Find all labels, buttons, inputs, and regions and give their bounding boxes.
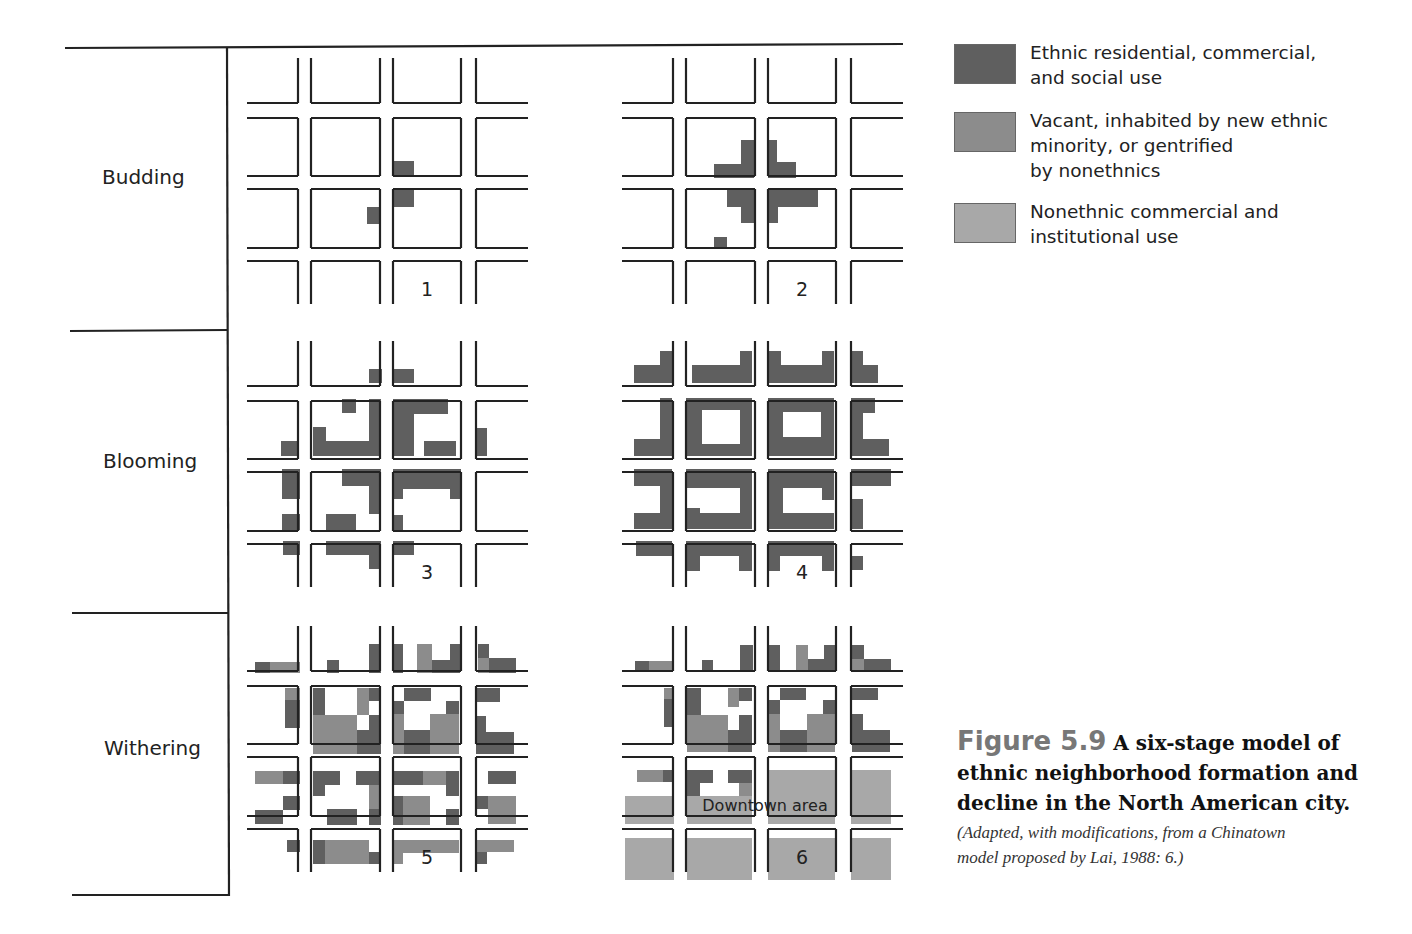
land-use-ethnic: [851, 499, 863, 529]
city-block: [311, 118, 380, 176]
land-use-vacant: [476, 840, 514, 852]
panel-number-3: 3: [421, 561, 433, 583]
land-use-vacant: [807, 714, 835, 752]
panel-number-6: 6: [796, 846, 808, 868]
legend-text-ethnic: Ethnic residential, commercial, and soci…: [1030, 40, 1316, 90]
panel-stage-3: 3: [247, 341, 528, 587]
land-use-ethnic: [313, 785, 325, 796]
land-use-vacant: [687, 715, 728, 752]
land-use-ethnic: [404, 730, 430, 754]
land-use-vacant: [325, 840, 369, 864]
legend-line: institutional use: [1030, 224, 1279, 249]
land-use-vacant: [423, 771, 446, 785]
land-use-ethnic: [728, 730, 739, 752]
city-block: [476, 472, 528, 531]
land-use-ethnic: [739, 688, 752, 701]
land-use-vacant: [393, 714, 404, 754]
land-use-ethnic: [739, 541, 752, 571]
land-use-ethnic: [393, 161, 414, 176]
land-use-ethnic: [450, 469, 461, 499]
figure-caption: Figure 5.9 A six-stage model of ethnic n…: [957, 726, 1377, 870]
land-use-ethnic: [822, 488, 834, 500]
legend-text-nonethnic: Nonethnic commercial and institutional u…: [1030, 199, 1279, 249]
panel-stage-1: 1: [247, 58, 528, 304]
land-use-vacant: [393, 853, 403, 864]
land-use-ethnic: [477, 428, 487, 456]
land-use-ethnic: [424, 441, 456, 456]
city-block: [476, 189, 528, 248]
courtyard: [702, 410, 740, 444]
city-block: [851, 189, 903, 248]
legend-line: Nonethnic commercial and: [1030, 199, 1279, 224]
city-block: [851, 58, 903, 103]
land-use-vacant: [739, 783, 752, 796]
city-block: [622, 118, 673, 176]
city-block: [851, 118, 903, 176]
land-use-vacant: [728, 688, 739, 707]
land-use-ethnic: [687, 770, 713, 783]
land-use-ethnic: [851, 556, 863, 570]
legend-item-ethnic: Ethnic residential, commercial, and soci…: [954, 40, 1374, 90]
land-use-ethnic: [823, 700, 835, 714]
land-use-ethnic: [313, 840, 325, 864]
land-use-ethnic: [824, 645, 836, 672]
land-use-ethnic: [313, 688, 325, 715]
land-use-vacant: [488, 796, 516, 824]
land-use-ethnic: [634, 513, 672, 529]
land-use-ethnic: [446, 701, 459, 714]
land-use-ethnic: [741, 140, 754, 178]
panel-stage-2: 2: [622, 58, 903, 304]
land-use-ethnic: [740, 351, 752, 383]
land-use-ethnic: [450, 644, 460, 673]
land-use-ethnic: [686, 488, 700, 508]
land-use-vacant: [357, 688, 369, 715]
city-block: [247, 118, 298, 176]
land-use-vacant: [430, 714, 459, 754]
land-use-ethnic: [852, 688, 878, 700]
city-block: [476, 341, 528, 386]
land-use-ethnic: [326, 514, 356, 530]
city-block: [686, 58, 755, 103]
legend: Ethnic residential, commercial, and soci…: [954, 40, 1374, 267]
legend-item-nonethnic: Nonethnic commercial and institutional u…: [954, 199, 1374, 249]
city-block: [851, 261, 903, 304]
land-use-ethnic: [768, 189, 778, 223]
land-use-ethnic: [393, 515, 403, 530]
land-use-ethnic: [739, 715, 752, 752]
panel-number-1: 1: [421, 278, 433, 300]
land-use-ethnic: [852, 730, 890, 752]
city-block: [247, 261, 298, 304]
caption-source-line: (Adapted, with modifications, from a Chi…: [957, 820, 1377, 845]
panels: 123456Downtown area: [247, 58, 903, 880]
city-block: [311, 58, 380, 103]
panel-stage-6: 6Downtown area: [622, 626, 903, 880]
land-use-nonethnic: [625, 796, 674, 824]
stage-label-blooming: Blooming: [103, 449, 197, 473]
courtyard: [783, 412, 821, 437]
city-block: [768, 58, 836, 103]
land-use-ethnic: [393, 189, 414, 207]
land-use-ethnic: [356, 771, 381, 785]
land-use-ethnic: [488, 771, 516, 784]
city-block: [247, 189, 298, 248]
land-use-ethnic: [313, 771, 340, 785]
land-use-ethnic: [478, 644, 489, 658]
land-use-ethnic: [780, 688, 806, 700]
legend-text-vacant: Vacant, inhabited by new ethnic minority…: [1030, 108, 1328, 183]
city-block: [622, 189, 673, 248]
legend-line: Vacant, inhabited by new ethnic: [1030, 108, 1328, 133]
land-use-ethnic: [768, 645, 780, 672]
land-use-nonethnic: [851, 838, 891, 880]
land-use-ethnic: [768, 541, 780, 571]
land-use-ethnic: [851, 365, 878, 383]
city-block: [476, 118, 528, 176]
city-block: [476, 261, 528, 304]
city-block: [622, 261, 673, 304]
legend-swatch-nonethnic: [954, 203, 1016, 243]
panel-number-2: 2: [796, 278, 808, 300]
legend-line: minority, or gentrified: [1030, 133, 1328, 158]
land-use-ethnic: [768, 700, 780, 714]
land-use-ethnic: [660, 351, 672, 383]
legend-item-vacant: Vacant, inhabited by new ethnic minority…: [954, 108, 1374, 183]
land-use-vacant: [313, 715, 357, 754]
